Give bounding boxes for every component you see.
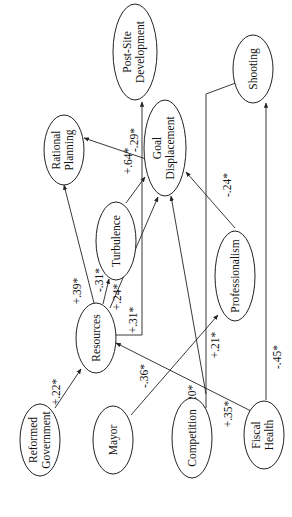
node-goal-displacement: Goal Displacement [144, 100, 186, 196]
label-competition-shooting: +.21* [209, 331, 221, 358]
label-resources-postsite: +.31* [127, 306, 139, 333]
node-label: Goal [151, 137, 163, 159]
node-rational-planning: Rational Planning [44, 115, 84, 185]
node-label: Mayor [107, 425, 120, 456]
node-label: Displacement [164, 116, 177, 180]
label-resources-goal: +.24* [111, 283, 123, 310]
node-label: Reformed [27, 417, 39, 463]
node-label: Planning [63, 129, 76, 170]
label-mayor-professionalism: -.36* [138, 364, 150, 388]
node-fiscal-health: Fiscal Health [244, 401, 284, 469]
label-resources-rational: +.39* [71, 277, 83, 304]
node-label: Fiscal [250, 421, 262, 448]
label-fiscal-shooting: -.45* [271, 345, 283, 369]
node-label: Competition [186, 409, 199, 467]
node-turbulence: Turbulence [96, 202, 136, 280]
node-reformed-government: Reformed Government [20, 404, 60, 476]
path-diagram: +.22* -.36* +.20* +.35* -.45* +.39* -.31… [0, 0, 292, 517]
label-reformed-resources: +.22* [50, 378, 62, 405]
node-label: Government [40, 410, 52, 468]
node-mayor: Mayor [93, 406, 133, 474]
node-competition: Competition [172, 398, 212, 478]
node-professionalism: Professionalism [215, 231, 255, 321]
node-label: Rational [50, 131, 62, 170]
node-label: Shooting [247, 48, 260, 90]
node-label: Health [263, 419, 275, 450]
label-fiscal-resources: +.35* [222, 400, 234, 427]
label-goal-rational: -.29* [128, 128, 140, 152]
node-post-site-development: Post-Site Development [113, 4, 157, 100]
node-shooting: Shooting [233, 35, 273, 103]
node-label: Development [134, 20, 147, 83]
node-label: Resources [90, 314, 102, 362]
edge-competition-goal [171, 196, 206, 394]
node-label: Turbulence [110, 215, 122, 267]
node-label: Post-Site [121, 31, 133, 73]
node-label: Professionalism [229, 239, 241, 313]
label-professionalism-goal: -.24* [221, 173, 233, 197]
node-resources: Resources [76, 303, 116, 373]
